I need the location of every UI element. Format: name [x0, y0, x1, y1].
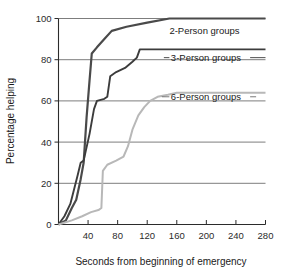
- y-tick-label-100: 100: [36, 13, 52, 24]
- x-axis-title: Seconds from beginning of emergency: [75, 256, 246, 267]
- x-tick-label-120: 120: [139, 230, 155, 241]
- x-tick-label-200: 200: [198, 230, 214, 241]
- series-label-6-person-groups: 6-Person groups: [171, 91, 241, 102]
- series-label-3-person-groups: 3-Person groups: [171, 52, 241, 63]
- x-tick-label-160: 160: [169, 230, 185, 241]
- y-axis-title: Percentage helping: [5, 78, 16, 164]
- series-label-2-person-groups: 2-Person groups: [169, 25, 239, 36]
- y-tick-label-80: 80: [41, 54, 52, 65]
- x-tick-label-40: 40: [83, 230, 94, 241]
- y-tick-label-20: 20: [41, 178, 52, 189]
- chart-figure: 020406080100 4080120160200240280 2-Perso…: [0, 0, 286, 273]
- x-tick-label-80: 80: [112, 230, 123, 241]
- y-tick-label-0: 0: [46, 219, 51, 230]
- percentage-helping-line-chart: 020406080100 4080120160200240280 2-Perso…: [0, 0, 286, 273]
- y-tick-label-40: 40: [41, 137, 52, 148]
- y-tick-label-60: 60: [41, 95, 52, 106]
- x-tick-label-280: 280: [258, 230, 274, 241]
- x-tick-label-240: 240: [228, 230, 244, 241]
